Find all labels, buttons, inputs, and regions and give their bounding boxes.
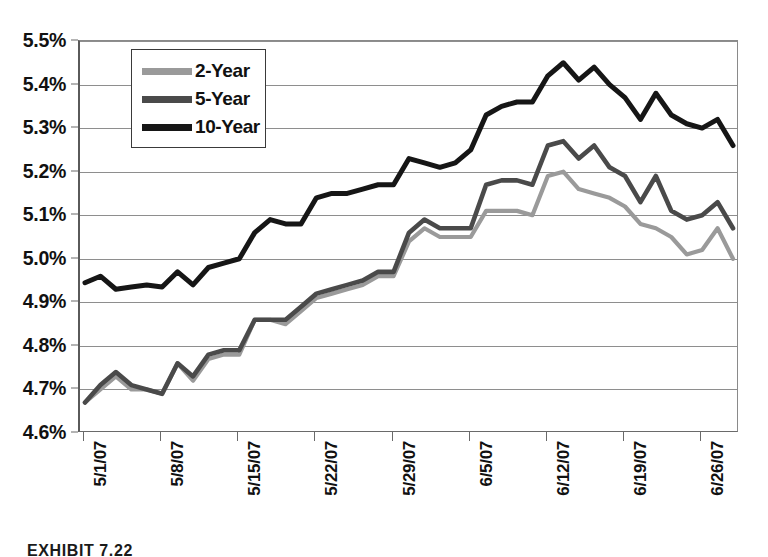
x-axis-tick-label: 6/12/07 xyxy=(554,441,574,496)
figure-caption: EXHIBIT 7.22 xyxy=(27,542,133,557)
y-axis-tick-mark xyxy=(71,388,78,389)
y-axis-tick-mark xyxy=(71,344,78,345)
y-axis-tick-mark xyxy=(71,170,78,171)
y-axis-tick-mark xyxy=(71,214,78,215)
y-axis-tick-label: 4.9% xyxy=(23,290,66,313)
y-axis-tick-label: 4.8% xyxy=(23,333,66,356)
x-axis-tick-label: 6/26/07 xyxy=(708,441,728,496)
x-axis-tick-label: 6/5/07 xyxy=(477,441,497,486)
legend-item: 2-Year xyxy=(142,57,265,85)
legend-label: 5-Year xyxy=(195,88,250,110)
x-axis-tick-label: 5/8/07 xyxy=(168,441,188,486)
y-axis-tick-label: 5.1% xyxy=(23,203,66,226)
x-axis-tick-label: 5/29/07 xyxy=(400,441,420,496)
legend-swatch xyxy=(142,96,192,103)
x-axis-tick-mark xyxy=(700,432,701,441)
x-axis-tick-mark xyxy=(623,432,624,441)
y-axis-tick-mark xyxy=(71,127,78,128)
y-axis: 5.5%5.4%5.3%5.2%5.1%5.0%4.9%4.8%4.7%4.6% xyxy=(0,0,78,472)
y-axis-tick-label: 4.7% xyxy=(23,377,66,400)
y-axis-tick-label: 5.4% xyxy=(23,72,66,95)
x-axis-tick-mark xyxy=(237,432,238,441)
legend-swatch xyxy=(142,68,192,75)
series-line-5-year xyxy=(85,141,733,402)
y-axis-tick-mark xyxy=(71,301,78,302)
y-axis-tick-label: 5.3% xyxy=(23,116,66,139)
x-axis-tick-label: 5/15/07 xyxy=(245,441,265,496)
legend-swatch xyxy=(142,124,192,131)
x-axis-tick-mark xyxy=(314,432,315,441)
y-axis-tick-label: 5.2% xyxy=(23,159,66,182)
y-axis-tick-mark xyxy=(71,432,78,433)
y-axis-tick-mark xyxy=(71,40,78,41)
y-axis-tick-label: 4.6% xyxy=(23,421,66,444)
legend-item: 10-Year xyxy=(142,113,265,141)
x-axis-tick-label: 5/1/07 xyxy=(91,441,111,486)
y-axis-tick-label: 5.5% xyxy=(23,29,66,52)
x-axis-tick-label: 6/19/07 xyxy=(631,441,651,496)
x-axis-tick-mark xyxy=(160,432,161,441)
chart-legend: 2-Year5-Year10-Year xyxy=(131,49,266,148)
y-axis-tick-mark xyxy=(71,83,78,84)
y-axis-tick-label: 5.0% xyxy=(23,246,66,269)
x-axis-tick-label: 5/22/07 xyxy=(322,441,342,496)
y-axis-tick-mark xyxy=(71,257,78,258)
x-axis-tick-mark xyxy=(546,432,547,441)
legend-item: 5-Year xyxy=(142,85,265,113)
x-axis-tick-mark xyxy=(83,432,84,441)
x-axis-tick-mark xyxy=(469,432,470,441)
legend-label: 2-Year xyxy=(195,60,250,82)
x-axis-tick-mark xyxy=(392,432,393,441)
legend-label: 10-Year xyxy=(195,116,260,138)
